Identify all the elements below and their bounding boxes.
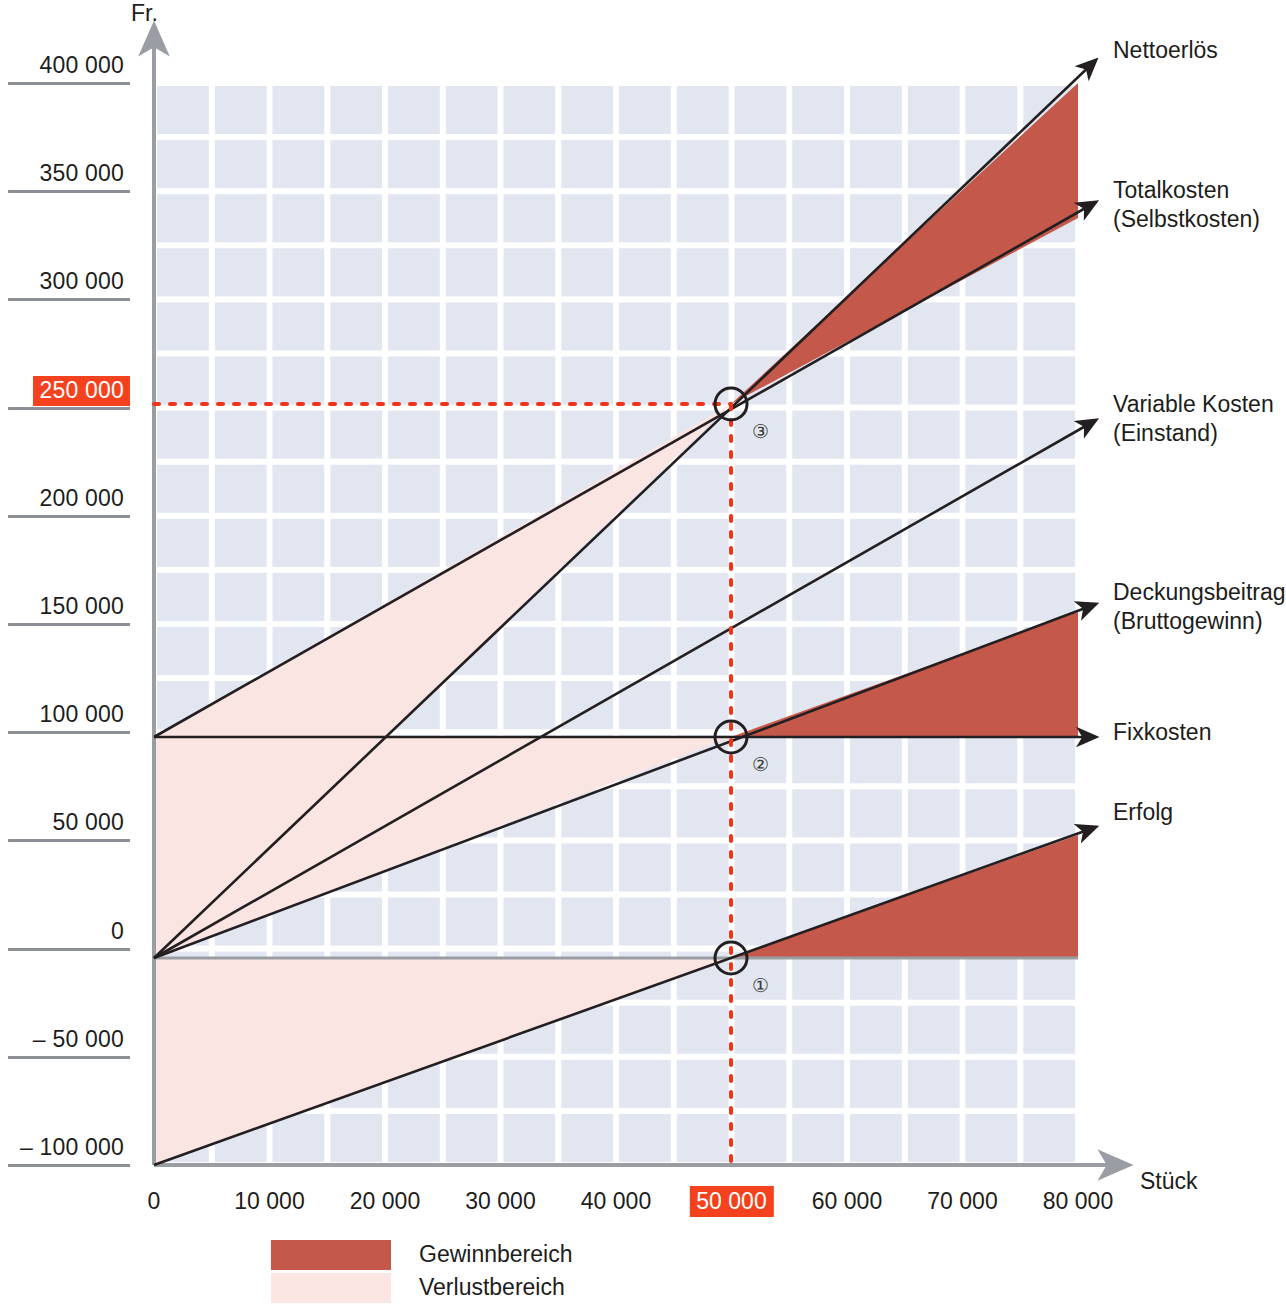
series-label-deckungsbeitrag: Deckungsbeitrag(Bruttogewinn)	[1113, 578, 1286, 636]
x-tick-40000: 40 000	[574, 1186, 658, 1217]
x-tick-20000: 20 000	[343, 1186, 427, 1217]
y-tick-label: 200 000	[33, 484, 130, 514]
series-label-totalkosten: Totalkosten(Selbstkosten)	[1113, 176, 1260, 234]
x-tick-label: 30 000	[458, 1186, 542, 1217]
y-tick-300000: 300 000	[8, 267, 130, 301]
x-tick-80000: 80 000	[1036, 1186, 1120, 1217]
series-label-nettoerloes: Nettoerlös	[1113, 36, 1218, 65]
x-tick-label: 80 000	[1036, 1186, 1120, 1217]
x-tick-label: 10 000	[227, 1186, 311, 1217]
y-tick-rule	[8, 190, 130, 193]
y-tick-rule	[8, 948, 130, 951]
y-tick--50000: – 50 000	[8, 1025, 130, 1059]
marker-number-2: ②	[752, 754, 769, 775]
y-tick-rule	[8, 82, 130, 85]
y-tick-label: 0	[105, 917, 130, 947]
series-label-line: Fixkosten	[1113, 718, 1211, 747]
series-label-line: Nettoerlös	[1113, 36, 1218, 65]
breakeven-chart-figure: ③ ② ① Fr. Stück 400 000350 000300 000250…	[0, 0, 1286, 1311]
x-tick-label: 70 000	[920, 1186, 1004, 1217]
y-tick--100000: – 100 000	[8, 1133, 130, 1167]
y-axis-caption: Fr.	[131, 0, 158, 27]
y-tick-label: 100 000	[33, 700, 130, 730]
y-tick-label: 350 000	[33, 159, 130, 189]
x-tick-label: 60 000	[805, 1186, 889, 1217]
legend-label: Verlustbereich	[419, 1274, 565, 1301]
x-tick-label: 40 000	[574, 1186, 658, 1217]
legend-swatch-verlustbereich	[271, 1273, 391, 1303]
y-tick-label: 250 000	[33, 376, 130, 406]
y-tick-rule	[8, 623, 130, 626]
x-tick-50000: 50 000	[689, 1186, 773, 1217]
y-tick-rule	[8, 839, 130, 842]
x-tick-70000: 70 000	[920, 1186, 1004, 1217]
series-label-line: Erfolg	[1113, 798, 1173, 827]
y-tick-50000: 50 000	[8, 808, 130, 842]
legend-swatch-gewinnbereich	[271, 1240, 391, 1270]
x-tick-label: 50 000	[689, 1186, 773, 1217]
x-tick-0: 0	[141, 1186, 168, 1217]
x-tick-10000: 10 000	[227, 1186, 311, 1217]
series-label-fixkosten: Fixkosten	[1113, 718, 1211, 747]
y-tick-rule	[8, 407, 130, 410]
legend-item-verlustbereich: Verlustbereich	[271, 1271, 572, 1304]
y-tick-label: 50 000	[46, 808, 130, 838]
legend-item-gewinnbereich: Gewinnbereich	[271, 1238, 572, 1271]
marker-number-1: ①	[752, 975, 769, 996]
x-tick-label: 20 000	[343, 1186, 427, 1217]
y-tick-400000: 400 000	[8, 51, 130, 85]
y-tick-200000: 200 000	[8, 484, 130, 518]
y-tick-150000: 150 000	[8, 592, 130, 626]
x-axis-caption: Stück	[1140, 1168, 1198, 1195]
y-tick-250000: 250 000	[8, 376, 130, 410]
y-tick-rule	[8, 1056, 130, 1059]
y-tick-0: 0	[8, 917, 130, 951]
y-tick-rule	[8, 515, 130, 518]
y-tick-rule	[8, 1164, 130, 1167]
chart-plot-area: ③ ② ①	[0, 0, 1286, 1311]
y-tick-label: 300 000	[33, 267, 130, 297]
y-tick-label: – 50 000	[27, 1025, 130, 1055]
series-label-variable-kosten: Variable Kosten(Einstand)	[1113, 390, 1274, 448]
series-label-line: (Selbstkosten)	[1113, 205, 1260, 234]
y-tick-rule	[8, 298, 130, 301]
y-tick-rule	[8, 731, 130, 734]
chart-legend: GewinnbereichVerlustbereich	[271, 1238, 572, 1304]
y-tick-350000: 350 000	[8, 159, 130, 193]
series-label-line: Totalkosten	[1113, 176, 1260, 205]
series-label-line: Deckungsbeitrag	[1113, 578, 1286, 607]
legend-label: Gewinnbereich	[419, 1241, 572, 1268]
series-label-line: (Bruttogewinn)	[1113, 607, 1286, 636]
x-tick-60000: 60 000	[805, 1186, 889, 1217]
y-tick-100000: 100 000	[8, 700, 130, 734]
marker-number-3: ③	[752, 421, 769, 442]
series-label-line: Variable Kosten	[1113, 390, 1274, 419]
series-label-line: (Einstand)	[1113, 419, 1274, 448]
y-tick-label: 400 000	[33, 51, 130, 81]
x-tick-30000: 30 000	[458, 1186, 542, 1217]
x-tick-label: 0	[141, 1186, 168, 1217]
y-tick-label: – 100 000	[14, 1133, 130, 1163]
y-tick-label: 150 000	[33, 592, 130, 622]
series-label-erfolg: Erfolg	[1113, 798, 1173, 827]
